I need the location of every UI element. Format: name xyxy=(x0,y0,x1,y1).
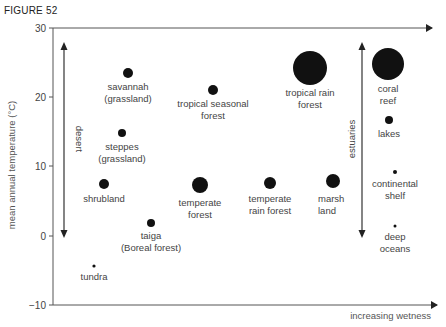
svg-text:(Boreal forest): (Boreal forest) xyxy=(121,242,181,253)
point-taiga: taiga (Boreal forest) xyxy=(121,219,181,253)
y-tick-0: 0 xyxy=(40,231,46,242)
svg-text:reef: reef xyxy=(380,95,397,106)
point-tropical-seasonal-forest: tropical seasonal forest xyxy=(177,85,248,121)
y-tick-10: 10 xyxy=(35,161,47,172)
y-axis-title: mean annual temperature (°C) xyxy=(6,101,17,229)
svg-text:(grassland): (grassland) xyxy=(104,93,152,104)
point-tundra: tundra xyxy=(81,264,109,282)
point-temperate-forest: temperate forest xyxy=(179,177,222,220)
estuaries-label: estuaries xyxy=(346,119,357,158)
point-tropical-rain-forest: tropical rain forest xyxy=(285,51,334,110)
svg-text:temperate: temperate xyxy=(179,197,222,208)
point-coral-reef: coral reef xyxy=(372,48,404,106)
svg-text:taiga: taiga xyxy=(141,230,162,241)
svg-text:shrubland: shrubland xyxy=(83,193,125,204)
scatter-chart: 30 20 10 0 −10 mean annual temperature (… xyxy=(0,0,446,327)
desert-label: desert xyxy=(74,126,85,153)
svg-text:forest: forest xyxy=(188,209,212,220)
y-tick-30: 30 xyxy=(35,23,47,34)
estuaries-range-arrow: estuaries xyxy=(346,42,366,238)
svg-text:savannah: savannah xyxy=(107,81,148,92)
desert-range-arrow: desert xyxy=(61,42,86,238)
svg-text:(grassland): (grassland) xyxy=(98,153,146,164)
point-shrubland: shrubland xyxy=(83,179,125,204)
x-axis-title: increasing wetness xyxy=(350,310,431,321)
svg-text:rain forest: rain forest xyxy=(249,205,292,216)
svg-text:tropical rain: tropical rain xyxy=(285,87,334,98)
svg-text:oceans: oceans xyxy=(380,243,411,254)
svg-text:temperate: temperate xyxy=(249,193,292,204)
svg-text:forest: forest xyxy=(298,99,322,110)
svg-text:land: land xyxy=(318,205,336,216)
point-steppes: steppes (grassland) xyxy=(98,129,146,164)
y-tick-minus10: −10 xyxy=(29,300,46,311)
y-tick-20: 20 xyxy=(35,92,47,103)
point-lakes: lakes xyxy=(378,116,400,139)
svg-text:shelf: shelf xyxy=(385,190,405,201)
svg-text:lakes: lakes xyxy=(378,128,400,139)
point-temperate-rain-forest: temperate rain forest xyxy=(249,177,292,216)
svg-text:tundra: tundra xyxy=(81,271,109,282)
svg-text:forest: forest xyxy=(201,110,225,121)
data-points: savannah (grassland) steppes (grassland)… xyxy=(81,48,418,282)
svg-text:deep: deep xyxy=(384,231,405,242)
svg-text:steppes: steppes xyxy=(105,141,139,152)
point-continental-shelf: continental shelf xyxy=(372,170,418,201)
point-savannah: savannah (grassland) xyxy=(104,68,152,104)
svg-text:continental: continental xyxy=(372,178,418,189)
axes: 30 20 10 0 −10 mean annual temperature (… xyxy=(6,23,437,321)
svg-text:coral: coral xyxy=(378,83,399,94)
svg-text:tropical seasonal: tropical seasonal xyxy=(177,98,248,109)
point-deep-oceans: deep oceans xyxy=(380,225,411,255)
svg-text:marsh: marsh xyxy=(318,193,344,204)
point-marsh-land: marsh land xyxy=(318,174,344,216)
